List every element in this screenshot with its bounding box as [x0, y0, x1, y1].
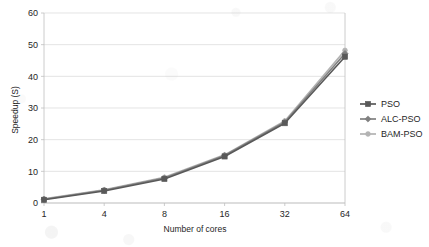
data-point-PSO-8	[162, 176, 167, 181]
legend-label-BAM-PSO: BAM-PSO	[381, 129, 423, 139]
chart-background	[0, 0, 429, 247]
y-tick-label-0: 0	[33, 198, 38, 208]
data-point-PSO-16	[222, 154, 227, 159]
legend-label-PSO: PSO	[381, 99, 400, 109]
y-tick-label-20: 20	[28, 135, 38, 145]
data-point-PSO-1	[41, 197, 46, 202]
y-tick-label-60: 60	[28, 8, 38, 18]
data-point-legend-PSO-1	[365, 101, 370, 106]
y-tick-label-30: 30	[28, 103, 38, 113]
data-point-PSO-4	[102, 188, 107, 193]
x-tick-label-4: 4	[102, 209, 107, 219]
legend-label-ALC-PSO: ALC-PSO	[381, 114, 421, 124]
data-point-PSO-64	[342, 54, 347, 59]
x-tick-label-8: 8	[162, 209, 167, 219]
y-axis-title: Speedup (S)	[10, 86, 20, 134]
speedup-line-chart: 0102030405060 148163264 Speedup (S) Numb…	[0, 0, 429, 247]
chart-canvas: 0102030405060 148163264 Speedup (S) Numb…	[0, 0, 429, 247]
x-tick-label-32: 32	[280, 209, 290, 219]
x-tick-label-16: 16	[220, 209, 230, 219]
data-point-PSO-32	[282, 121, 287, 126]
x-tick-label-64: 64	[340, 209, 350, 219]
x-tick-label-1: 1	[41, 209, 46, 219]
y-tick-label-40: 40	[28, 72, 38, 82]
y-tick-label-10: 10	[28, 167, 38, 177]
data-point-legend-BAM-PSO-1	[366, 132, 371, 137]
y-tick-label-50: 50	[28, 40, 38, 50]
x-axis-title: Number of cores	[164, 224, 227, 234]
